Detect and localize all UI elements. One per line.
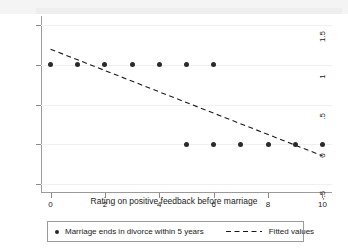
scatter-point [238,142,243,147]
scatter-plot-figure: -.50.511.5 0246810 Rating on positive fe… [0,0,348,251]
scatter-point [266,142,271,147]
scan-artifact-band-inner [36,8,342,14]
scatter-point [293,142,298,147]
scatter-point [320,142,325,147]
dashed-line-icon [226,228,262,235]
scatter-point [211,142,216,147]
legend: Marriage ends in divorce within 5 years … [47,221,304,242]
x-axis-title: Rating on positive feedback before marri… [0,196,348,206]
legend-label-fitted: Fitted values [269,227,314,236]
legend-item-fitted: Fitted values [226,227,314,236]
legend-item-scatter: Marriage ends in divorce within 5 years [55,227,204,236]
dot-marker-icon [55,230,59,234]
fitted-values-line [41,16,332,193]
scatter-point [184,142,189,147]
plot-area: -.50.511.5 0246810 [41,16,331,192]
legend-label-scatter: Marriage ends in divorce within 5 years [65,227,204,236]
